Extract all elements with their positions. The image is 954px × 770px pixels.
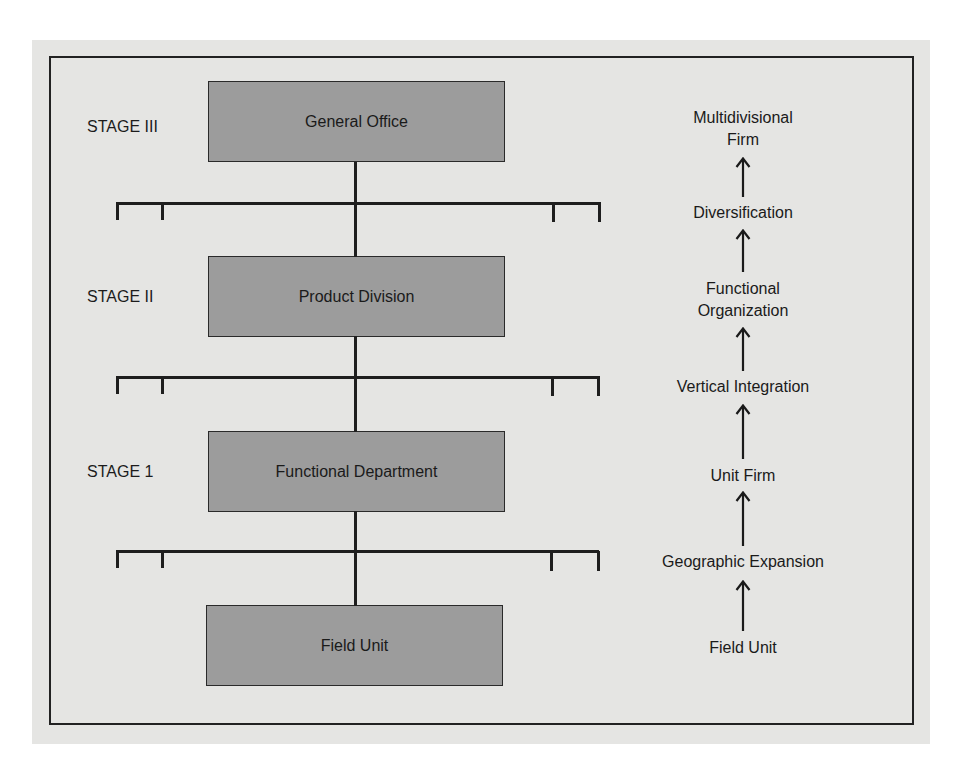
progression-diversification: Diversification	[630, 202, 856, 224]
arrow-up-icon	[735, 157, 751, 197]
stage-label-i: STAGE 1	[87, 462, 153, 482]
progression-field-unit: Field Unit	[630, 637, 856, 659]
arrow-up-icon	[735, 404, 751, 459]
arrow-up-icon	[735, 229, 751, 272]
branch-tick	[161, 202, 164, 220]
box-field-unit: Field Unit	[206, 605, 503, 686]
progression-text: Organization	[630, 300, 856, 322]
branch-tick	[161, 376, 164, 394]
progression-vertical-integration: Vertical Integration	[630, 376, 856, 398]
progression-text: Diversification	[630, 202, 856, 224]
connector-stage1-field	[354, 511, 357, 606]
progression-text: Geographic Expansion	[630, 551, 856, 573]
box-product-division: Product Division	[208, 256, 505, 337]
branch-tick	[551, 377, 554, 396]
box-functional-department: Functional Department	[208, 431, 505, 512]
branch-tick	[552, 203, 555, 222]
progression-text: Field Unit	[630, 637, 856, 659]
branch-tick	[116, 202, 119, 220]
arrow-up-icon	[735, 580, 751, 631]
arrow-up-icon	[735, 327, 751, 371]
progression-text: Firm	[630, 129, 856, 151]
connector-stage3-stage2	[354, 162, 357, 257]
branch-tick	[116, 550, 119, 568]
progression-functional-organization: Functional Organization	[630, 278, 856, 322]
branch-tick	[597, 377, 600, 396]
branch-tick	[161, 550, 164, 568]
stage-label-ii: STAGE II	[87, 287, 153, 307]
branch-tick	[116, 376, 119, 394]
branch-tick	[598, 203, 601, 222]
branch-bar-1	[116, 202, 601, 205]
progression-unit-firm: Unit Firm	[630, 465, 856, 487]
branch-tick	[550, 551, 553, 571]
progression-text: Unit Firm	[630, 465, 856, 487]
branch-bar-2	[116, 376, 600, 379]
progression-text: Functional	[630, 278, 856, 300]
stage-label-iii: STAGE III	[87, 117, 158, 137]
branch-bar-3	[116, 550, 599, 553]
progression-text: Multidivisional	[630, 107, 856, 129]
progression-geographic-expansion: Geographic Expansion	[630, 551, 856, 573]
arrow-up-icon	[735, 491, 751, 546]
box-general-office: General Office	[208, 81, 505, 162]
connector-stage2-stage1	[354, 336, 357, 432]
branch-tick	[597, 551, 600, 571]
progression-text: Vertical Integration	[630, 376, 856, 398]
progression-multidivisional-firm: Multidivisional Firm	[630, 107, 856, 151]
